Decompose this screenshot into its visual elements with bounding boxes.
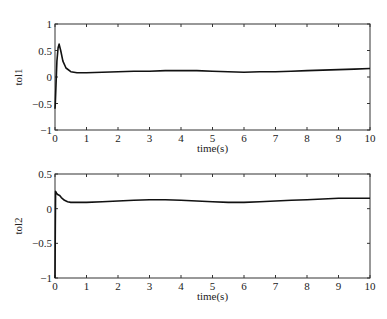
y-tick-label: −1 [40,124,52,136]
y-tick-label: −1 [40,272,52,284]
x-tick-label: 4 [178,132,184,144]
x-tick-label: 0 [52,280,58,292]
subplot-2: 0123456789100.50−0.5−1time(s)tol2 [12,168,376,303]
x-tick-label: 1 [84,280,90,292]
x-tick-label: 9 [336,280,342,292]
x-tick-label: 8 [304,280,310,292]
plot-frame [55,174,370,278]
x-tick-label: 6 [241,280,247,292]
x-tick-label: 10 [365,132,377,144]
y-axis-label: tol2 [12,217,24,234]
x-tick-label: 0 [52,132,58,144]
x-tick-label: 2 [115,280,121,292]
x-tick-label: 3 [147,132,153,144]
x-tick-label: 2 [115,132,121,144]
y-tick-label: −0.5 [32,237,52,249]
series-line-tol1 [55,44,370,109]
x-axis-label: time(s) [197,142,228,155]
x-tick-label: 3 [147,280,153,292]
x-tick-label: 7 [273,132,279,144]
x-tick-label: 4 [178,280,184,292]
x-tick-label: 8 [304,132,310,144]
x-axis-label: time(s) [197,290,228,303]
series-line-tol2 [55,191,370,278]
x-tick-label: 10 [365,280,377,292]
x-tick-label: 9 [336,132,342,144]
x-tick-label: 1 [84,132,90,144]
y-tick-label: 0 [47,71,53,83]
y-axis-label: tol1 [12,68,24,85]
subplot-1: 01234567891010.50−0.5−1time(s)tol1 [12,18,376,155]
x-tick-label: 7 [273,280,279,292]
plot-frame [55,24,370,130]
y-tick-label: 0.5 [38,168,52,180]
x-tick-label: 6 [241,132,247,144]
y-tick-label: −0.5 [32,98,52,110]
chart-figure: 01234567891010.50−0.5−1time(s)tol1012345… [0,0,387,319]
y-tick-label: 0 [47,203,53,215]
y-tick-label: 0.5 [38,45,52,57]
y-tick-label: 1 [47,18,53,30]
